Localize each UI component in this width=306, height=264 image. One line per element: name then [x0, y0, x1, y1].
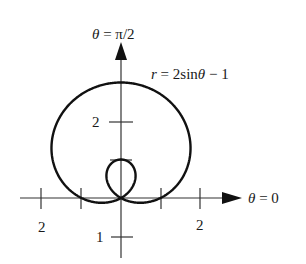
tick-label-vertical-2: 2 [92, 115, 100, 130]
polar-plot [0, 0, 306, 264]
horizontal-axis-label: θ = 0 [248, 191, 279, 206]
vertical-axis-label: θ = π/2 [92, 27, 135, 42]
vertical-axis-arrow-icon [115, 42, 127, 60]
horizontal-axis-arrow-icon [222, 192, 242, 204]
horizontal-axis-value: = 0 [255, 190, 278, 206]
tick-label-vertical-neg1: 1 [96, 230, 104, 245]
curve-equation-label: r = 2sinθ − 1 [151, 67, 229, 82]
tick-label-horizontal-2: 2 [196, 218, 204, 233]
equation-part: = 2sin [157, 66, 198, 82]
tick-label-horizontal-neg2: 2 [38, 220, 46, 235]
vertical-axis-value: = π/2 [99, 26, 134, 42]
equation-tail: − 1 [205, 66, 228, 82]
